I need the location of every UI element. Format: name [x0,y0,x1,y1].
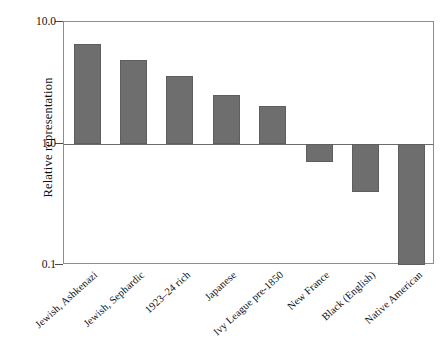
bar [398,144,425,266]
chart-figure: Relative representation 10.01.00.1 Jewis… [0,0,445,350]
bar [352,144,379,192]
y-tick-mark [55,21,63,22]
y-tick-mark [55,143,63,144]
y-tick-label: 0.1 [0,258,56,270]
bar [259,106,286,145]
bar [166,76,193,145]
bar [120,60,147,145]
bar [306,144,333,162]
x-tick-label: 1923–24 rich [143,269,193,315]
bar [74,44,101,145]
y-tick-mark [55,264,63,265]
x-tick-label: Japanese [203,269,239,303]
bar [213,95,240,144]
y-tick-label: 10.0 [0,15,56,27]
x-tick-label: New France [285,269,331,312]
plot-area [63,21,434,264]
y-tick-label: 1.0 [0,137,56,149]
